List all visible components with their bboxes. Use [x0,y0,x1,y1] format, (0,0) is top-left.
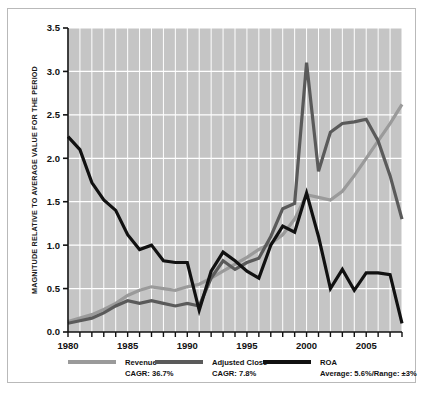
y-axis-ticks: 0.00.51.01.52.02.53.03.5 [47,22,68,337]
y-tick-label: 3.0 [47,66,60,77]
y-axis-title: MAGNITUDE RELATIVE TO AVERAGE VALUE FOR … [30,66,39,294]
legend-sublabel-roa: Average: 5.6%/Range: ±3% [320,369,417,378]
legend-sublabel-revenue: CAGR: 36.7% [125,369,174,378]
y-tick-label: 1.0 [47,240,60,251]
x-axis-ticks: 198019851990199520002005 [57,332,402,351]
y-tick-label: 0.0 [47,326,60,337]
legend-label-revenue: Revenue [125,358,157,367]
legend-label-roa: ROA [320,358,337,367]
legend: RevenueCAGR: 36.7%Adjusted CloseCAGR: 7.… [68,358,417,378]
x-tick-label: 1985 [117,340,139,351]
x-tick-label: 1990 [177,340,198,351]
y-tick-label: 2.0 [47,153,60,164]
chart-figure: 0.00.51.01.52.02.53.03.51980198519901995… [0,0,425,397]
x-tick-label: 2000 [296,340,317,351]
x-tick-label: 1980 [57,340,78,351]
y-tick-label: 2.5 [47,109,61,120]
plot-container: 0.00.51.01.52.02.53.03.51980198519901995… [0,0,425,397]
x-tick-label: 1995 [236,340,258,351]
x-tick-label: 2005 [356,340,378,351]
legend-sublabel-adjusted-close: CAGR: 7.8% [212,369,257,378]
y-tick-label: 3.5 [47,22,61,33]
y-tick-label: 1.5 [47,196,61,207]
legend-label-adjusted-close: Adjusted Close [212,358,267,367]
y-tick-label: 0.5 [47,283,61,294]
line-chart: 0.00.51.01.52.02.53.03.51980198519901995… [0,0,425,397]
